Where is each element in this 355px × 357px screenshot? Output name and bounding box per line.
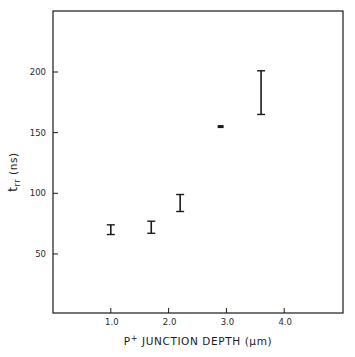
data-points (107, 71, 265, 235)
y-tick-label: 100 (30, 188, 46, 198)
point-marker (218, 125, 224, 128)
y-tick-label: 150 (30, 128, 46, 138)
y-axis-ticks: 50100150200 (30, 67, 58, 259)
x-axis-ticks: 1.02.03.04.0 (105, 308, 292, 327)
y-tick-label: 50 (35, 249, 46, 259)
error-bar-point (107, 225, 115, 235)
error-bar-point (257, 71, 265, 115)
chart: 50100150200 1.02.03.04.0 trr (ns) P+ JUN… (0, 0, 355, 357)
x-tick-label: 4.0 (278, 317, 292, 327)
y-axis-label-rest: (ns) (7, 152, 19, 179)
y-tick-label: 200 (30, 67, 46, 77)
x-tick-label: 2.0 (163, 317, 177, 327)
x-tick-label: 3.0 (221, 317, 235, 327)
x-axis-label-base: P (124, 335, 131, 347)
error-bar-point (218, 125, 224, 128)
x-axis-label-superscript: + (131, 334, 138, 343)
x-axis-label-rest: JUNCTION DEPTH (μm) (138, 335, 272, 347)
plot-frame (53, 11, 343, 313)
error-bar-point (176, 195, 184, 212)
x-tick-label: 1.0 (105, 317, 119, 327)
error-bar-point (147, 221, 155, 233)
x-axis-label: P+ JUNCTION DEPTH (μm) (124, 334, 272, 347)
y-axis-label-subscript: rr (13, 179, 22, 187)
y-axis-label: trr (ns) (6, 152, 22, 192)
